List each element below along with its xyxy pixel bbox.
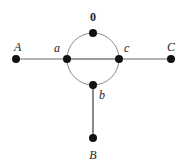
node-B: [89, 134, 97, 142]
label-A: A: [13, 40, 22, 54]
label-C: C: [167, 40, 176, 54]
graph-diagram: A a c C 0 b B: [0, 0, 185, 164]
node-b: [89, 81, 97, 89]
node-a: [63, 55, 71, 63]
label-0: 0: [90, 10, 96, 24]
label-a: a: [54, 41, 60, 55]
node-A: [12, 55, 20, 63]
label-c: c: [124, 41, 130, 55]
node-C: [167, 55, 175, 63]
label-b: b: [99, 88, 105, 102]
node-c: [115, 55, 123, 63]
node-0: [89, 29, 97, 37]
label-B: B: [89, 148, 97, 162]
